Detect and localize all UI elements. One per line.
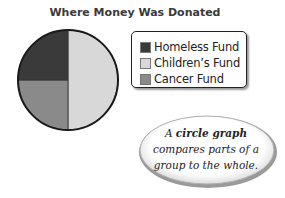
- callout-prefix: A: [165, 127, 176, 139]
- legend-item-childrens: Children’s Fund: [140, 55, 246, 71]
- legend-item-cancer: Cancer Fund: [140, 71, 246, 87]
- legend-label: Homeless Fund: [154, 40, 239, 54]
- legend-label: Cancer Fund: [154, 72, 224, 86]
- pie-chart: [15, 27, 121, 133]
- legend-item-homeless: Homeless Fund: [140, 39, 246, 55]
- legend-swatch: [140, 58, 151, 69]
- legend-swatch: [140, 42, 151, 53]
- callout-term: circle graph: [176, 127, 247, 139]
- legend-label: Children’s Fund: [154, 56, 240, 70]
- legend-swatch: [140, 74, 151, 85]
- callout-text: A circle graph compares parts of a group…: [136, 125, 276, 173]
- callout-line2: compares parts of a: [136, 141, 276, 157]
- pie-slice-children-s-fund: [68, 30, 118, 130]
- chart-title: Where Money Was Donated: [0, 6, 270, 19]
- callout-line3: group to the whole.: [136, 157, 276, 173]
- chart-legend: Homeless Fund Children’s Fund Cancer Fun…: [131, 31, 247, 88]
